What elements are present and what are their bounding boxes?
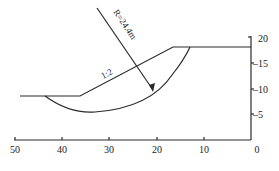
ground-profile: [20, 47, 251, 96]
radius-label: R=24.4m: [111, 8, 138, 42]
slope-diagram: 50 40 30 20 10 0 20 –15 –10 –5 R=24.4m 1…: [0, 0, 279, 171]
x-tick-label: 30: [104, 144, 114, 155]
x-tick-label: 50: [10, 144, 20, 155]
y-tick-label: –5: [252, 109, 263, 120]
x-tick-label: 0: [255, 144, 260, 155]
x-tick-label: 40: [57, 144, 67, 155]
y-tick-label: –15: [252, 58, 268, 69]
y-tick-label: 20: [258, 33, 268, 44]
x-tick-label: 20: [152, 144, 162, 155]
y-tick-label: –10: [252, 84, 268, 95]
slip-circle-arc: [45, 47, 190, 112]
arrowhead-icon: [149, 83, 155, 92]
x-tick-label: 10: [199, 144, 209, 155]
